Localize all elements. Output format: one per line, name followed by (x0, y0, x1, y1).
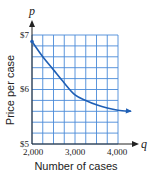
x-tick-4000: 4,000 (107, 147, 128, 157)
y-variable-label: p (28, 4, 35, 18)
x-variable-label: q (141, 137, 147, 151)
x-tick-2000: 2,000 (23, 147, 44, 157)
x-axis-arrow-icon (132, 141, 139, 147)
x-axis-title: Number of cases (34, 160, 118, 172)
curve-start-point (30, 40, 34, 44)
y-tick-7: $7 (20, 30, 30, 40)
grid (32, 35, 118, 144)
y-tick-6: $6 (20, 84, 30, 94)
curve-end-arrow-icon (126, 108, 132, 113)
y-axis-arrow-icon (29, 20, 35, 27)
x-tick-3000: 3,000 (65, 147, 86, 157)
y-axis-title: Price per case (4, 55, 16, 125)
chart: p q $7 $6 $5 2,000 3,000 4,000 Number of… (0, 0, 157, 176)
